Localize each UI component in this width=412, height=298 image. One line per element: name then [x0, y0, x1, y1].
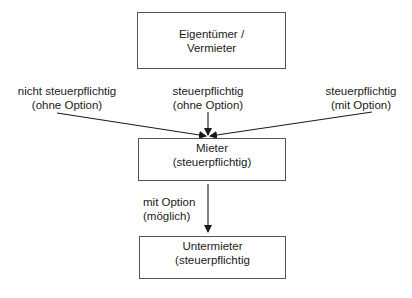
edge-label-center-line2: (ohne Option) — [160, 98, 256, 112]
node-eigentuemer: Eigentümer / Vermieter — [137, 12, 286, 69]
edge-label-left-line2: (ohne Option) — [12, 98, 122, 112]
arrow-right-to-mieter — [210, 112, 372, 136]
edge-label-right-line2: (mit Option) — [318, 98, 404, 112]
node-untermieter-line2: (steuerpflichtig — [140, 253, 285, 267]
edge-label-left-line1: nicht steuerpflichtig — [12, 84, 122, 98]
node-untermieter-line1: Untermieter — [140, 239, 285, 253]
edge-label-down: mit Option (möglich) — [143, 195, 203, 223]
edge-label-left: nicht steuerpflichtig (ohne Option) — [12, 84, 122, 112]
edge-label-center: steuerpflichtig (ohne Option) — [160, 84, 256, 112]
edge-label-center-line1: steuerpflichtig — [160, 84, 256, 98]
node-untermieter: Untermieter (steuerpflichtig — [139, 236, 286, 279]
node-mieter-line1: Mieter — [139, 141, 285, 155]
node-eigentuemer-line2: Vermieter — [138, 41, 285, 55]
edge-label-down-line2: (möglich) — [143, 209, 203, 223]
edge-label-down-line1: mit Option — [143, 195, 203, 209]
edge-label-right: steuerpflichtig (mit Option) — [318, 84, 404, 112]
node-mieter: Mieter (steuerpflichtig) — [138, 138, 286, 181]
edge-label-right-line1: steuerpflichtig — [318, 84, 404, 98]
arrow-left-to-mieter — [57, 113, 206, 136]
node-mieter-line2: (steuerpflichtig) — [139, 155, 285, 169]
node-eigentuemer-line1: Eigentümer / — [138, 27, 285, 41]
